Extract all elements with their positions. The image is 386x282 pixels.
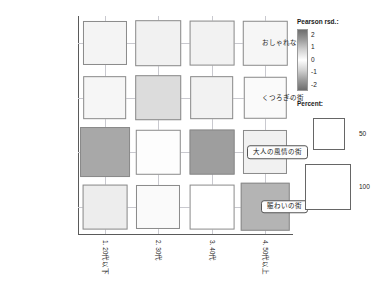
percent-legend-keys: 50100 — [297, 112, 377, 220]
x-axis-label-1: 2. 30代 — [155, 240, 162, 261]
percent-key-box-50 — [313, 118, 345, 150]
percent-legend-title: Percent: — [297, 101, 377, 108]
heatmap-cell — [83, 21, 127, 65]
x-axis-line — [78, 234, 293, 235]
heatmap-cell — [189, 130, 234, 175]
heatmap-cell — [189, 184, 234, 229]
percent-legend: Percent: 50100 — [297, 101, 377, 220]
percent-key-label-50: 50 — [359, 130, 366, 137]
percent-key-box-100 — [305, 164, 351, 210]
percent-key-label-100: 100 — [359, 183, 370, 190]
residual-tick--2: -2 — [311, 81, 317, 88]
residual-tick--1: -1 — [311, 69, 317, 76]
heatmap-cell — [136, 130, 180, 174]
heatmap-cell — [136, 185, 180, 229]
residual-tick-2: 2 — [311, 31, 315, 38]
residual-tick-0: 0 — [311, 56, 315, 63]
plot-panel — [78, 16, 292, 234]
association-plot: おしゃれな街くつろぎの街大人の風情の街賑わいの街 1. 20代以下2. 30代3… — [0, 0, 386, 282]
residual-colorbar — [297, 29, 308, 91]
x-axis-label-0: 1. 20代以下 — [101, 240, 108, 275]
residual-tick-1: 1 — [311, 44, 315, 51]
residual-colorbar-wrap: 210-1-2 — [297, 29, 341, 91]
heatmap-cell — [190, 76, 234, 120]
x-axis-label-2: 3. 40代 — [208, 240, 215, 261]
residual-legend: Pearson rsd.: 210-1-2 — [297, 19, 341, 91]
heatmap-cell — [82, 184, 127, 229]
residual-legend-title: Pearson rsd.: — [297, 19, 341, 26]
heatmap-cell — [189, 21, 234, 66]
heatmap-cell — [83, 76, 127, 120]
heatmap-cell — [80, 127, 130, 177]
heatmap-cell — [135, 20, 181, 66]
heatmap-cell — [135, 75, 181, 121]
x-axis-label-3: 4. 50代以上 — [262, 240, 269, 275]
